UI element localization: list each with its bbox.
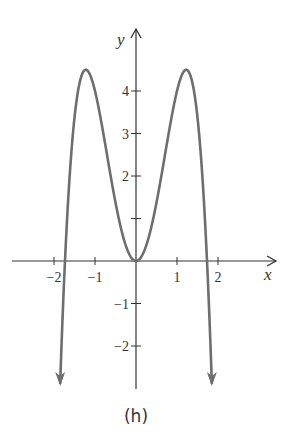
y-axis-label: y	[115, 30, 125, 49]
figure-caption: (h)	[0, 406, 272, 426]
x-tick-label: −2	[47, 270, 62, 285]
y-tick-label: −2	[114, 339, 129, 354]
x-tick-label: −1	[88, 270, 103, 285]
x-tick-label: 1	[174, 270, 181, 285]
function-graph: −2−112−2−1234 x y	[0, 0, 281, 435]
x-axis-label: x	[263, 265, 272, 284]
y-tick-label: −1	[114, 297, 129, 312]
x-tick-label: 2	[215, 270, 222, 285]
y-tick-label: 4	[122, 84, 129, 99]
axes	[12, 29, 276, 389]
y-tick-label: 3	[122, 127, 129, 142]
y-tick-label: 2	[122, 169, 129, 184]
